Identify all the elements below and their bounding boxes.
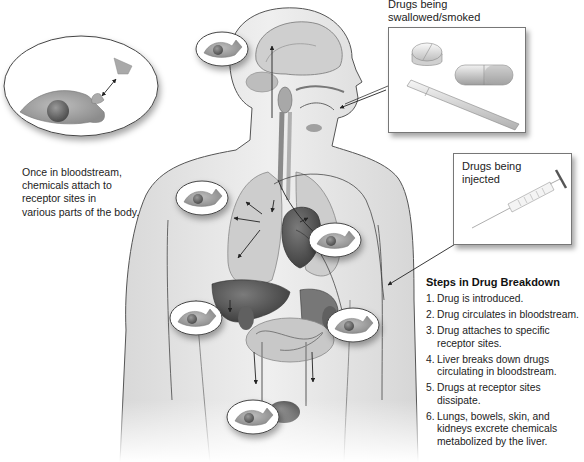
step-item: 1.Drug is introduced.	[426, 293, 584, 306]
caption-line: various parts of the body.	[22, 206, 139, 219]
cigarette-icon	[407, 80, 519, 130]
step-item: 5.Drugs at receptor sites dissipate.	[426, 382, 584, 407]
step-text: Lungs, bowels, skin, and	[437, 411, 550, 422]
receptor-site-heart	[309, 223, 361, 257]
step-text: receptor sites.	[437, 338, 502, 349]
steps-title: Steps in Drug Breakdown	[426, 276, 584, 288]
step-text: circulating in bloodstream.	[437, 366, 557, 377]
capsule-icon	[455, 65, 513, 85]
step-text: Drugs at receptor sites	[437, 382, 541, 393]
step-item: 2.Drug circulates in bloodstream.	[426, 309, 584, 322]
receptor-site-brain	[196, 32, 248, 66]
step-text: Drug circulates in bloodstream.	[437, 309, 579, 320]
step-text: Drug attaches to specific	[437, 325, 550, 336]
step-text: Drug is introduced.	[437, 293, 523, 304]
caption-line: receptor sites in	[22, 192, 139, 205]
label-line: Drugs being	[388, 0, 480, 11]
step-text: Liver breaks down drugs	[437, 354, 549, 365]
pills-cigarette-icon	[389, 28, 525, 132]
step-text: metabolized by the liver.	[437, 436, 547, 447]
label-line: swallowed/smoked	[388, 11, 480, 24]
step-text: kidneys excrete chemicals	[437, 423, 557, 434]
step-number: 2.	[426, 309, 437, 322]
step-number: 6.	[426, 411, 437, 424]
steps-list: 1.Drug is introduced. 2.Drug circulates …	[426, 293, 584, 448]
step-text: dissipate.	[437, 395, 481, 406]
swallowed-smoked-label: Drugs being swallowed/smoked	[388, 0, 480, 24]
receptor-site-left-hand	[170, 301, 222, 335]
step-item: 3.Drug attaches to specific receptor sit…	[426, 325, 584, 350]
step-number: 4.	[426, 354, 437, 367]
receptor-site-right-hand	[327, 308, 379, 342]
step-item: 6.Lungs, bowels, skin, and kidneys excre…	[426, 411, 584, 449]
steps-panel: Steps in Drug Breakdown 1.Drug is introd…	[426, 276, 584, 452]
syringe-icon	[454, 154, 571, 244]
receptor-site-bladder	[227, 400, 279, 434]
tablet-icon	[412, 43, 442, 66]
caption-line: chemicals attach to	[22, 179, 139, 192]
caption-line: Once in bloodstream,	[22, 166, 139, 179]
step-number: 5.	[426, 382, 437, 395]
injected-drugs-box: Drugs being injected	[453, 153, 572, 245]
swallowed-drugs-box	[388, 27, 526, 133]
receptor-site-shoulder	[176, 181, 228, 215]
step-item: 4.Liver breaks down drugs circulating in…	[426, 354, 584, 379]
bloodstream-caption: Once in bloodstream, chemicals attach to…	[22, 166, 139, 219]
receptor-cell-callout	[4, 36, 158, 136]
pointer-line	[345, 84, 390, 114]
step-number: 3.	[426, 325, 437, 338]
step-number: 1.	[426, 293, 437, 306]
